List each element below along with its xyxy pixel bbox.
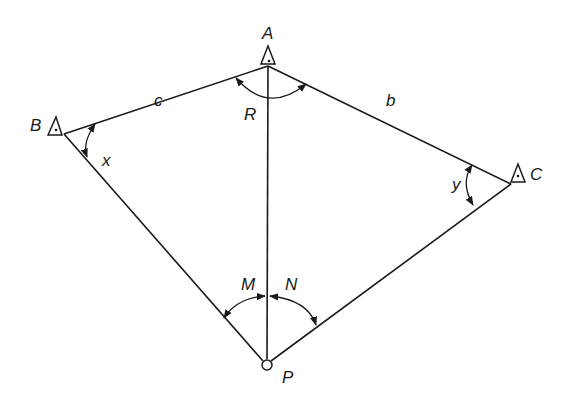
station-C-triangle-icon: [511, 164, 525, 182]
label-station-A: A: [261, 24, 273, 43]
side-b-AC: [268, 66, 511, 184]
label-station-C: C: [530, 165, 543, 184]
angle-N-arc: [270, 296, 316, 325]
angle-y-arc: [466, 165, 473, 205]
label-angle-y: y: [451, 175, 462, 194]
label-angle-M: M: [241, 275, 256, 294]
angle-R-arc: [236, 78, 306, 98]
label-station-B: B: [30, 116, 41, 135]
label-angle-N: N: [285, 275, 298, 294]
angle-M-arc: [224, 296, 265, 318]
angle-x-arc: [86, 124, 95, 157]
label-side-c: c: [154, 91, 163, 110]
station-B-triangle-icon: [48, 117, 62, 135]
label-angle-R: R: [244, 105, 256, 124]
line-CP: [271, 184, 511, 361]
line-AP: [267, 66, 268, 359]
line-BP: [64, 134, 263, 361]
resection-diagram: A B C P c b R x y M N: [0, 0, 571, 403]
label-station-P: P: [282, 368, 294, 387]
station-P-circle-icon: [262, 360, 272, 370]
label-side-b: b: [386, 91, 395, 110]
label-angle-x: x: [101, 151, 111, 170]
